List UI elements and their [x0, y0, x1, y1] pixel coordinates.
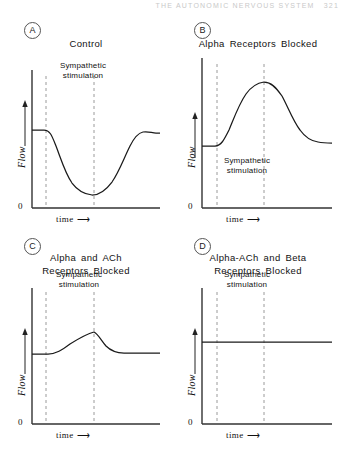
x-axis-label-a: time⟶: [56, 214, 90, 224]
running-head-title: THE AUTONOMIC NERVOUS SYSTEM: [156, 2, 315, 9]
stim-label-c: Sympathetic stimulation: [36, 270, 122, 290]
figure-container: THE AUTONOMIC NERVOUS SYSTEM 321 A Contr…: [0, 0, 345, 459]
y-arrow-head-b: [192, 112, 197, 119]
stim-label-d: Sympathetic stimulation: [204, 270, 290, 290]
stim-label-b: Sympathetic stimulation: [204, 156, 290, 176]
panel-d: D Alpha-ACh and Beta Receptors Blocked S…: [172, 234, 344, 454]
origin-label-c: 0: [18, 417, 23, 427]
curve-a: [32, 130, 160, 195]
curve-c: [32, 332, 160, 354]
x-arrow-icon-d: ⟶: [247, 430, 260, 440]
x-arrow-icon-c: ⟶: [77, 430, 90, 440]
x-arrow-icon-b: ⟶: [247, 214, 260, 224]
x-axis-label-text-b: time: [226, 214, 244, 224]
y-axis-label-c: Flow: [16, 374, 27, 396]
y-axis-label-a: Flow: [16, 146, 27, 168]
y-arrow-head-a: [22, 100, 27, 107]
x-arrow-icon-a: ⟶: [77, 214, 90, 224]
origin-label-d: 0: [188, 417, 193, 427]
origin-label-a: 0: [18, 201, 23, 211]
plot-c: [0, 234, 172, 454]
x-axis-label-text-a: time: [56, 214, 74, 224]
y-axis-label-b: Flow: [186, 146, 197, 168]
y-axis-label-d: Flow: [186, 374, 197, 396]
y-arrow-head-c: [22, 328, 27, 335]
plot-b: [172, 18, 344, 238]
x-axis-label-text-c: time: [56, 430, 74, 440]
panel-c: C Alpha and ACh Receptors Blocked Sympat…: [0, 234, 172, 454]
stim-label-a: Sympathetic stimulation: [40, 61, 126, 81]
plot-a: [0, 18, 172, 238]
x-axis-label-b: time⟶: [226, 214, 260, 224]
running-head: THE AUTONOMIC NERVOUS SYSTEM 321: [156, 2, 339, 9]
x-axis-label-d: time⟶: [226, 430, 260, 440]
y-arrow-head-d: [192, 328, 197, 335]
x-axis-label-c: time⟶: [56, 430, 90, 440]
origin-label-b: 0: [188, 201, 193, 211]
curve-b: [202, 82, 332, 146]
x-axis-label-text-d: time: [226, 430, 244, 440]
page-number: 321: [324, 2, 339, 9]
panel-a: A Control Sympathetic stimulation Flow 0…: [0, 18, 172, 238]
panel-b: B Alpha Receptors Blocked Sympathetic st…: [172, 18, 344, 238]
plot-d: [172, 234, 344, 454]
